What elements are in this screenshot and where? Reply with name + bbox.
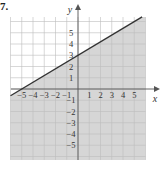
x-tick-label: 5 — [132, 90, 136, 100]
x-tick-label: 2 — [98, 90, 102, 100]
y-tick-label: 5 — [69, 28, 73, 38]
x-tick-label: −2 — [51, 90, 60, 100]
x-tick-label: −3 — [40, 90, 49, 100]
x-tick-label: −4 — [28, 90, 38, 100]
y-tick-label: −1 — [66, 95, 75, 105]
y-tick-label: −3 — [66, 118, 75, 128]
y-axis-arrow-icon — [75, 4, 81, 10]
y-tick-label: 3 — [69, 50, 73, 60]
x-axis-label: x — [152, 93, 158, 104]
x-tick-label: 3 — [110, 90, 114, 100]
y-tick-label: −5 — [66, 140, 75, 150]
y-tick-label: 2 — [69, 62, 73, 72]
inequality-graph: −5−4−3−2−112345−5−4−3−2−112345xy — [0, 0, 167, 169]
y-tick-label: −2 — [66, 107, 75, 117]
x-axis-arrow-icon — [154, 86, 160, 92]
x-tick-label: 1 — [87, 90, 91, 100]
x-tick-label: −5 — [17, 90, 26, 100]
y-axis-label: y — [67, 4, 73, 15]
y-tick-label: 1 — [69, 73, 73, 83]
y-tick-label: −4 — [66, 129, 76, 139]
